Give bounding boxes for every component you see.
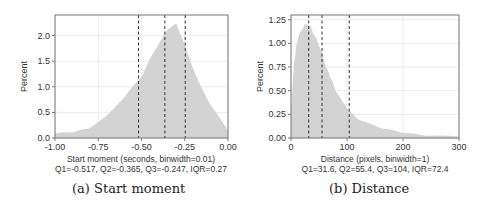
panel-a-y-tick-label: 0.5 <box>37 107 50 117</box>
panel-a-y-tick-label: 1.5 <box>37 56 50 66</box>
panel-b-y-tick-label: 1.25 <box>268 15 286 25</box>
panel-a-x-tick-label: -0.50 <box>131 142 152 152</box>
caption-a: (a) Start moment <box>72 181 185 196</box>
panel-b-quartile-stats: Q1=31.6, Q2=55.4, Q3=104, IQR=72.4 <box>302 164 449 174</box>
panel-b-x-tick-label: 100 <box>339 142 354 152</box>
panel-a-x-tick-label: -0.75 <box>88 142 109 152</box>
panel-b-y-tick-label: 0.50 <box>268 86 286 96</box>
panel-b-y-tick-label: 1.00 <box>268 38 286 48</box>
panel-a-x-tick-label: -0.25 <box>174 142 195 152</box>
panel-a-y-axis-label: Percent <box>19 60 29 92</box>
panel-b-histogram <box>291 24 459 138</box>
panel-a-x-axis-label: Start moment (seconds, binwidth=0.01) <box>67 154 215 164</box>
panel-b-x-tick-label: 200 <box>395 142 410 152</box>
panel-b-x-tick-label: 0 <box>288 142 293 152</box>
panel-a-y-tick-label: 2.0 <box>37 31 50 41</box>
panel-b-x-tick-label: 300 <box>451 142 466 152</box>
panel-b-y-tick-label: 0.75 <box>268 62 286 72</box>
panel-b-y-axis-label: Percent <box>255 60 265 92</box>
panel-a-x-tick-label: -1.00 <box>45 142 66 152</box>
panel-a-y-tick-label: 1.0 <box>37 82 50 92</box>
panel-b-x-axis-label: Distance (pixels, binwidth=1) <box>321 154 430 164</box>
panel-b-y-tick-label: 0.00 <box>268 133 286 143</box>
panel-a-x-tick-label: 0.00 <box>219 142 237 152</box>
caption-b: (b) Distance <box>329 181 409 196</box>
panel-b-y-tick-label: 0.25 <box>268 109 286 119</box>
panel-a-quartile-stats: Q1=-0.517, Q2=-0.365, Q3=-0.247, IQR=0.2… <box>55 164 227 174</box>
